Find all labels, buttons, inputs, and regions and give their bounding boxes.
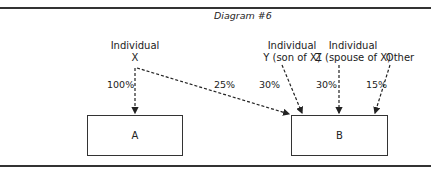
target-b-label: B — [336, 130, 343, 141]
target-a-label: A — [132, 130, 139, 141]
target-b-box: B — [291, 115, 388, 156]
target-a-box: A — [87, 115, 183, 156]
